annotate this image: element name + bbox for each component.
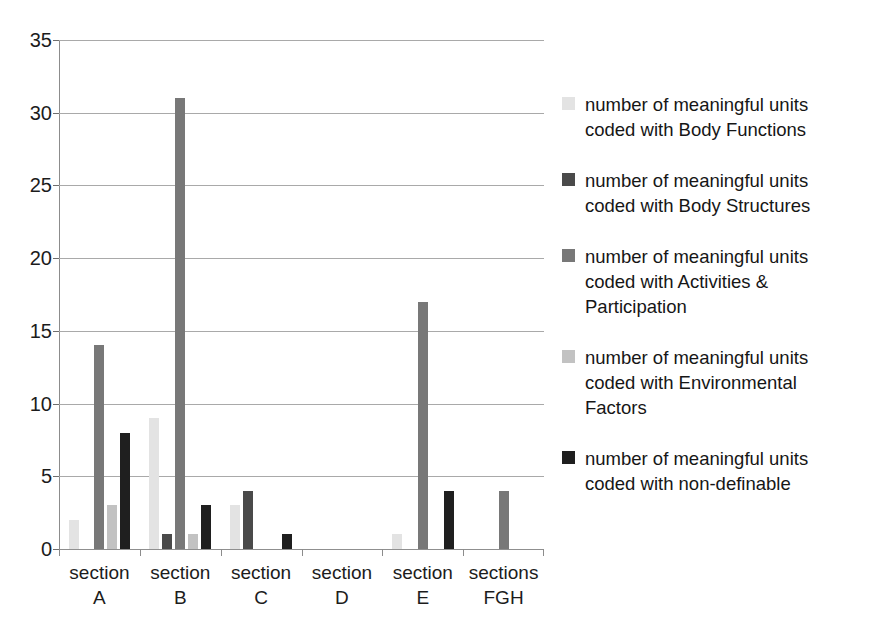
x-axis-tick-mark (302, 549, 303, 556)
x-axis-tick-mark (463, 549, 464, 556)
x-axis-category-label-line: A (59, 585, 140, 610)
bar-group (59, 40, 140, 549)
legend-label-line: coded with Body Functions (585, 117, 808, 142)
legend-label-line: coded with Activities & (585, 269, 808, 294)
legend-label-line: number of meaningful units (585, 244, 808, 269)
legend-label-line: coded with Environmental (585, 370, 808, 395)
plot-region: 35302520151050 sectionAsectionBsectionCs… (0, 0, 560, 636)
y-axis-tick-label: 5 (6, 466, 52, 486)
legend-label-line: coded with Body Structures (585, 193, 810, 218)
x-axis-category-label-line: sections (463, 560, 544, 585)
x-axis-category-label-line: section (302, 560, 383, 585)
bar (162, 534, 172, 549)
legend-label: number of meaningful unitscoded with Bod… (585, 92, 808, 142)
x-axis-category-label: sectionC (221, 560, 302, 610)
x-axis-tick-mark (382, 549, 383, 556)
x-axis-category-label: sectionA (59, 560, 140, 610)
legend-label-line: number of meaningful units (585, 446, 808, 471)
bar-chart-figure: 35302520151050 sectionAsectionBsectionCs… (0, 0, 886, 636)
legend-item: number of meaningful unitscoded with Bod… (562, 92, 886, 142)
legend-item: number of meaningful unitscoded with Bod… (562, 168, 886, 218)
bar-group (302, 40, 383, 549)
legend-label: number of meaningful unitscoded with Bod… (585, 168, 810, 218)
legend-label-line: Participation (585, 294, 808, 319)
y-axis-tick-label: 30 (6, 103, 52, 123)
x-axis-category-label: sectionB (140, 560, 221, 610)
x-axis-tick-mark (543, 549, 544, 556)
bar (188, 534, 198, 549)
x-axis-tick-mark (221, 549, 222, 556)
legend-label: number of meaningful unitscoded with non… (585, 446, 808, 496)
x-axis-category-label: sectionD (302, 560, 383, 610)
bar-group (382, 40, 463, 549)
legend-label-line: Factors (585, 395, 808, 420)
x-axis-category-label: sectionE (382, 560, 463, 610)
legend-swatch-icon (562, 173, 575, 186)
x-axis-category-label-line: C (221, 585, 302, 610)
legend-label: number of meaningful unitscoded with Act… (585, 244, 808, 319)
bar-groups (59, 40, 544, 549)
x-axis-category-label-line: section (59, 560, 140, 585)
bar-group (463, 40, 544, 549)
legend-label-line: coded with non-definable (585, 471, 808, 496)
bar-group (140, 40, 221, 549)
chart-legend: number of meaningful unitscoded with Bod… (562, 92, 886, 522)
bar (418, 302, 428, 549)
x-axis-tick-mark (59, 549, 60, 556)
bar-group (221, 40, 302, 549)
bar (149, 418, 159, 549)
x-axis-category-label-line: section (221, 560, 302, 585)
bar (94, 345, 104, 549)
x-axis-category-label-line: section (382, 560, 463, 585)
y-axis-tick-label: 35 (6, 30, 52, 50)
legend-item: number of meaningful unitscoded with Act… (562, 244, 886, 319)
x-axis-category-label-line: section (140, 560, 221, 585)
bar (444, 491, 454, 549)
plot-axes-area (59, 40, 544, 549)
legend-label-line: number of meaningful units (585, 345, 808, 370)
legend-label: number of meaningful unitscoded with Env… (585, 345, 808, 420)
bar (499, 491, 509, 549)
bar (282, 534, 292, 549)
x-axis-category-label-line: B (140, 585, 221, 610)
bar (201, 505, 211, 549)
bar (392, 534, 402, 549)
legend-swatch-icon (562, 350, 575, 363)
y-axis-tick-labels: 35302520151050 (0, 0, 52, 636)
y-axis-tick-label: 10 (6, 394, 52, 414)
bar (175, 98, 185, 549)
bar (230, 505, 240, 549)
legend-item: number of meaningful unitscoded with Env… (562, 345, 886, 420)
bar (120, 433, 130, 549)
legend-label-line: number of meaningful units (585, 92, 808, 117)
x-axis-tick-mark (140, 549, 141, 556)
y-axis-tick-label: 0 (6, 539, 52, 559)
x-axis-category-label: sectionsFGH (463, 560, 544, 610)
y-axis-tick-label: 25 (6, 175, 52, 195)
x-axis-category-label-line: FGH (463, 585, 544, 610)
legend-item: number of meaningful unitscoded with non… (562, 446, 886, 496)
legend-swatch-icon (562, 249, 575, 262)
x-axis-category-label-line: D (302, 585, 383, 610)
legend-swatch-icon (562, 451, 575, 464)
legend-label-line: number of meaningful units (585, 168, 810, 193)
x-axis-category-labels: sectionAsectionBsectionCsectionDsectionE… (59, 560, 544, 630)
legend-swatch-icon (562, 97, 575, 110)
x-axis-category-label-line: E (382, 585, 463, 610)
y-axis-tick-label: 20 (6, 248, 52, 268)
bar (69, 520, 79, 549)
y-axis-tick-label: 15 (6, 321, 52, 341)
bar (107, 505, 117, 549)
bar (243, 491, 253, 549)
